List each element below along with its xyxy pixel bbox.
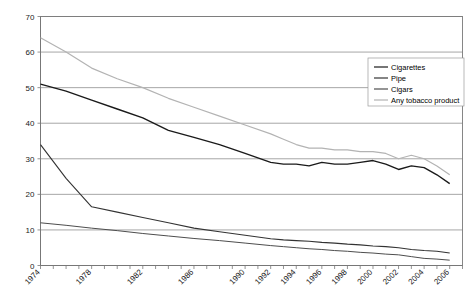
legend-label[interactable]: Pipe xyxy=(391,74,406,83)
legend-label[interactable]: Cigarettes xyxy=(391,63,425,72)
x-tick-label-group: 2002 xyxy=(381,267,400,286)
x-tick-label: 1994 xyxy=(279,267,298,286)
y-tick-label: 50 xyxy=(26,84,35,93)
y-tick-label: 30 xyxy=(26,155,35,164)
x-tick-label: 2000 xyxy=(355,267,374,286)
x-tick-label: 2004 xyxy=(407,267,426,286)
y-tick-label: 40 xyxy=(26,119,35,128)
series-line-cigars xyxy=(41,223,450,260)
x-tick-label: 1990 xyxy=(228,267,247,286)
x-tick-label-group: 1982 xyxy=(125,267,144,286)
x-tick-label-group: 2004 xyxy=(407,267,426,286)
x-tick-labels: 1974197819821986199019921994199619982000… xyxy=(23,267,452,286)
x-tick-label-group: 2000 xyxy=(355,267,374,286)
y-tick-label: 70 xyxy=(26,13,35,22)
plot-frame xyxy=(41,17,463,266)
x-tick-label-group: 1992 xyxy=(253,267,272,286)
legend-label[interactable]: Any tobacco product xyxy=(391,96,460,105)
x-tick-label-group: 1986 xyxy=(176,267,195,286)
grid-lines xyxy=(41,17,463,230)
plot-area-border xyxy=(41,17,463,266)
y-tick-label: 10 xyxy=(26,226,35,235)
x-tick-label-group: 1990 xyxy=(228,267,247,286)
x-tick-label: 2002 xyxy=(381,267,400,286)
x-tick-label-group: 1996 xyxy=(304,267,323,286)
x-tick-label-group: 1978 xyxy=(74,267,93,286)
x-tick-label: 1986 xyxy=(176,267,195,286)
x-tick-label: 1974 xyxy=(23,267,42,286)
chart-svg: 010203040506070 197419781982198619901992… xyxy=(0,0,474,308)
x-tick-label: 1998 xyxy=(330,267,349,286)
x-tick-label: 1982 xyxy=(125,267,144,286)
x-tick-label: 2006 xyxy=(432,267,451,286)
series-line-pipe xyxy=(41,145,450,253)
legend-label[interactable]: Cigars xyxy=(391,85,413,94)
y-tick-labels: 010203040506070 xyxy=(26,13,35,271)
y-tick-label: 60 xyxy=(26,48,35,57)
x-tick-label-group: 1974 xyxy=(23,267,42,286)
x-tick-label-group: 2006 xyxy=(432,267,451,286)
x-tick-label: 1992 xyxy=(253,267,272,286)
line-chart: 010203040506070 197419781982198619901992… xyxy=(0,0,474,308)
x-axis xyxy=(41,266,463,270)
x-tick-label: 1996 xyxy=(304,267,323,286)
x-tick-label-group: 1998 xyxy=(330,267,349,286)
y-tick-label: 20 xyxy=(26,190,35,199)
chart-legend[interactable]: CigarettesPipeCigarsAny tobacco product xyxy=(368,58,464,106)
x-tick-label: 1978 xyxy=(74,267,93,286)
x-tick-label-group: 1994 xyxy=(279,267,298,286)
